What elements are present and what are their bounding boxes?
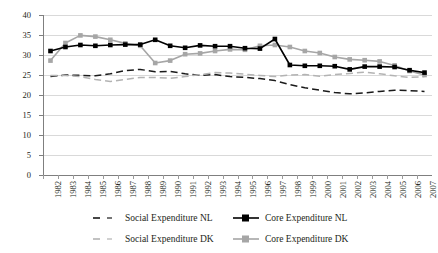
series-marker [243, 46, 248, 51]
legend-label-core-dk: Core Expenditure DK [265, 234, 348, 244]
series-marker [213, 49, 218, 54]
series-marker [63, 41, 68, 46]
series-marker [273, 37, 278, 42]
series-marker [108, 43, 113, 48]
series-marker [153, 61, 158, 66]
series-marker [198, 51, 203, 56]
chart-container: 0510152025303540 19821983198419851986198… [0, 0, 438, 253]
series-marker [303, 49, 308, 54]
chart-legend: Social Expenditure NL Core Expenditure N… [92, 209, 392, 251]
series-line [50, 35, 424, 75]
series-marker [168, 44, 173, 49]
series-marker [228, 44, 233, 49]
legend-label-social-nl: Social Expenditure NL [125, 213, 213, 223]
series-marker [407, 68, 412, 73]
series-marker [213, 44, 218, 49]
legend-entry-social-nl: Social Expenditure NL [92, 213, 232, 223]
series-marker [183, 46, 188, 51]
series-marker [317, 64, 322, 69]
series-marker [48, 49, 53, 54]
series-marker [78, 43, 83, 48]
series-marker [108, 38, 113, 43]
series-marker [198, 43, 203, 48]
legend-label-social-dk: Social Expenditure DK [125, 234, 214, 244]
series-marker [303, 64, 308, 69]
legend-row-2: Social Expenditure DK Core Expenditure D… [92, 230, 382, 247]
series-marker [362, 58, 367, 63]
series-marker [78, 33, 83, 38]
legend-entry-core-dk: Core Expenditure DK [232, 234, 382, 244]
series-marker [332, 64, 337, 69]
series-marker [317, 51, 322, 56]
legend-entry-social-dk: Social Expenditure DK [92, 234, 232, 244]
series-marker [288, 45, 293, 50]
legend-sample-core-nl-icon [232, 213, 260, 223]
legend-sample-social-dk-icon [92, 234, 120, 244]
series-marker [422, 70, 427, 75]
series-marker [347, 67, 352, 72]
legend-row-1: Social Expenditure NL Core Expenditure N… [92, 209, 382, 226]
series-marker [377, 59, 382, 64]
series-marker [93, 34, 98, 39]
legend-entry-core-nl: Core Expenditure NL [232, 213, 382, 223]
series-marker [347, 57, 352, 62]
series-marker [377, 64, 382, 69]
legend-label-core-nl: Core Expenditure NL [265, 213, 347, 223]
series-line [50, 39, 424, 73]
series-marker [48, 58, 53, 63]
series-marker [392, 65, 397, 70]
series-marker [183, 52, 188, 57]
series-marker [332, 55, 337, 60]
legend-sample-social-nl-icon [92, 213, 120, 223]
series-marker [168, 58, 173, 63]
series-marker [288, 63, 293, 68]
series-marker [63, 45, 68, 50]
series-marker [93, 44, 98, 49]
series-marker [123, 42, 128, 47]
series-marker [138, 42, 143, 47]
series-marker [258, 46, 263, 51]
series-marker [153, 38, 158, 43]
series-marker [362, 64, 367, 69]
legend-sample-core-dk-icon [232, 234, 260, 244]
